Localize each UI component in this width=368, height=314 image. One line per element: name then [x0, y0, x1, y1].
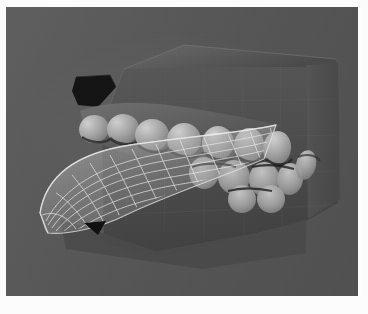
page-margin-right [362, 0, 368, 314]
page-margin-top [0, 0, 368, 7]
dental-model-scene [6, 7, 358, 296]
dark-notch [72, 75, 116, 107]
page-canvas: Dental arch 3D model with wireframe occl… [0, 0, 368, 314]
page-margin-bottom [0, 296, 368, 314]
3d-render-viewport[interactable] [6, 7, 358, 296]
page-margin-left [0, 0, 6, 314]
